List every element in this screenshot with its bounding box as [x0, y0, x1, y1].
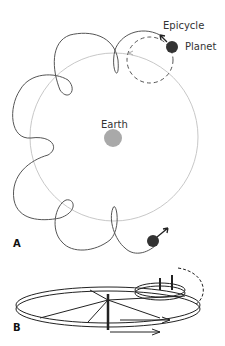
earth-dot — [104, 129, 122, 147]
earth-label: Earth — [101, 119, 128, 130]
planet-path — [13, 31, 160, 253]
planet-arrow-bottom-icon — [157, 228, 168, 237]
planet-dot — [166, 41, 178, 53]
epicycle-circle — [127, 37, 173, 83]
panel-a-letter: A — [13, 238, 21, 249]
panel-b-letter: B — [13, 322, 21, 333]
epicycle-label: Epicycle — [163, 20, 204, 31]
mechanical-model-b — [16, 268, 203, 335]
planet-label: Planet — [185, 41, 216, 52]
